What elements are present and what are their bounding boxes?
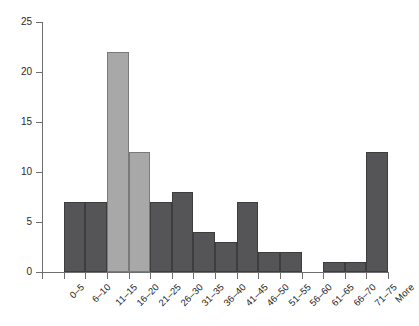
x-axis-tick-label: 0–5 bbox=[67, 282, 85, 300]
x-axis-tick-label: 16–20 bbox=[135, 282, 161, 308]
x-axis-tick-label: 56–60 bbox=[308, 282, 334, 308]
x-axis-tick-label: 6–10 bbox=[90, 282, 112, 304]
x-axis-tick bbox=[302, 273, 303, 279]
x-axis-tick bbox=[42, 273, 43, 279]
x-axis-tick bbox=[150, 273, 151, 279]
x-axis-tick-label: 11–15 bbox=[113, 282, 138, 307]
bar bbox=[129, 152, 151, 272]
bar bbox=[215, 242, 237, 272]
y-axis-tick-label: 20 bbox=[4, 67, 32, 77]
x-axis-tick-label: 36–40 bbox=[222, 282, 248, 308]
x-axis-tick bbox=[366, 273, 367, 279]
bar bbox=[323, 262, 345, 272]
x-axis-tick-label: 31–35 bbox=[200, 282, 226, 308]
x-axis-tick bbox=[215, 273, 216, 279]
x-axis-tick bbox=[64, 273, 65, 279]
bar bbox=[345, 262, 367, 272]
x-axis-tick bbox=[280, 273, 281, 279]
y-axis-tick-label: 5 bbox=[4, 217, 32, 227]
bar bbox=[172, 192, 194, 272]
bar bbox=[64, 202, 86, 272]
x-axis-tick-label: More bbox=[393, 282, 415, 304]
x-axis-tick-label: 26–30 bbox=[179, 282, 205, 308]
y-axis-tick-label: 10 bbox=[4, 167, 32, 177]
histogram-chart: 0510152025 0–56–1011–1516–2021–2526–3031… bbox=[0, 0, 419, 326]
bar bbox=[193, 232, 215, 272]
x-axis-tick bbox=[258, 273, 259, 279]
x-axis-tick bbox=[172, 273, 173, 279]
x-axis-tick bbox=[388, 273, 389, 279]
x-axis-tick bbox=[193, 273, 194, 279]
x-axis-tick-label: 61–65 bbox=[330, 282, 356, 308]
x-axis-tick-label: 41–45 bbox=[243, 282, 269, 308]
plot-area bbox=[42, 22, 388, 272]
x-axis-tick bbox=[323, 273, 324, 279]
x-axis-tick-label: 66–70 bbox=[352, 282, 378, 308]
x-axis-tick bbox=[237, 273, 238, 279]
x-axis-tick bbox=[345, 273, 346, 279]
x-axis-tick-label: 21–25 bbox=[157, 282, 183, 308]
x-axis-tick bbox=[129, 273, 130, 279]
y-axis-tick-label: 15 bbox=[4, 117, 32, 127]
y-axis-tick-label: 25 bbox=[4, 17, 32, 27]
bar bbox=[237, 202, 259, 272]
bar bbox=[150, 202, 172, 272]
x-axis-tick bbox=[107, 273, 108, 279]
x-axis-tick bbox=[85, 273, 86, 279]
x-axis-tick-label: 51–55 bbox=[287, 282, 313, 308]
bar bbox=[366, 152, 388, 272]
bar bbox=[258, 252, 280, 272]
bar bbox=[85, 202, 107, 272]
x-axis-tick-label: 46–50 bbox=[265, 282, 291, 308]
bar bbox=[107, 52, 129, 272]
bar bbox=[280, 252, 302, 272]
y-axis-tick-label: 0 bbox=[4, 267, 32, 277]
